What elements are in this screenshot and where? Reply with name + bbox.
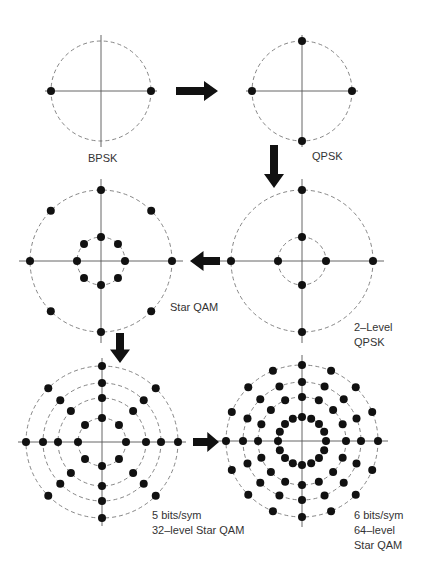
- constellation-point: [122, 438, 130, 446]
- arrow-right-icon: [193, 432, 219, 452]
- qpsk-constellation: [246, 35, 358, 147]
- star-qam-32-constellation: [18, 358, 186, 526]
- constellation-point: [322, 257, 330, 265]
- constellation-point: [157, 438, 165, 446]
- constellation-point: [67, 407, 75, 415]
- label-line: QPSK: [312, 149, 343, 164]
- label-line: Star QAM: [170, 300, 218, 315]
- constellation-point: [152, 384, 160, 392]
- label-line: BPSK: [88, 151, 117, 166]
- constellation-point: [81, 421, 89, 429]
- constellation-point: [327, 367, 335, 375]
- constellation-point: [244, 383, 252, 391]
- constellation-point: [114, 240, 122, 248]
- constellation-point: [147, 207, 155, 215]
- constellation-point: [289, 415, 297, 423]
- constellation-point: [298, 393, 306, 401]
- constellation-point: [147, 307, 155, 315]
- constellation-point: [74, 438, 82, 446]
- constellation-point: [321, 492, 329, 500]
- constellation-point: [140, 396, 148, 404]
- constellation-point: [315, 454, 323, 462]
- constellation-point: [281, 420, 289, 428]
- constellation-point: [80, 274, 88, 282]
- constellation-point: [315, 420, 323, 428]
- constellation-point: [39, 438, 47, 446]
- star-qam-32-label: 5 bits/sym32–level Star QAM: [152, 508, 244, 538]
- constellation-point: [298, 281, 306, 289]
- constellation-point: [353, 460, 361, 468]
- constellation-point: [368, 466, 376, 474]
- arrow-down-icon: [110, 333, 130, 363]
- two-level-qpsk-label: 2–LevelQPSK: [354, 320, 393, 350]
- constellation-point: [340, 395, 348, 403]
- two-level-qpsk-constellation: [220, 179, 384, 343]
- constellation-point: [276, 446, 284, 454]
- constellation-point: [47, 307, 55, 315]
- constellation-point: [254, 437, 262, 445]
- constellation-point: [244, 491, 252, 499]
- constellation-point: [80, 240, 88, 248]
- constellation-point: [256, 479, 264, 487]
- constellation-point: [339, 454, 347, 462]
- constellation-point: [98, 362, 106, 370]
- arrow-down-icon: [264, 145, 284, 188]
- constellation-point: [327, 507, 335, 515]
- label-line: 32–level Star QAM: [152, 523, 244, 538]
- constellation-point: [243, 460, 251, 468]
- constellation-point: [239, 437, 247, 445]
- constellation-point: [168, 257, 176, 265]
- constellation-point: [275, 492, 283, 500]
- constellation-point: [298, 496, 306, 504]
- constellation-point: [98, 514, 106, 522]
- star-qam-64-constellation: [216, 355, 388, 527]
- star-qam-constellation: [19, 179, 183, 343]
- constellation-point: [114, 274, 122, 282]
- label-line: 5 bits/sym: [152, 508, 244, 523]
- constellation-point: [98, 497, 106, 505]
- constellation-point: [322, 437, 330, 445]
- constellation-point: [81, 455, 89, 463]
- constellation-point: [228, 466, 236, 474]
- constellation-point: [222, 437, 230, 445]
- constellation-point: [257, 420, 265, 428]
- star-qam-label: Star QAM: [170, 300, 218, 315]
- constellation-point: [269, 367, 277, 375]
- constellation-point: [98, 414, 106, 422]
- constellation-point: [47, 87, 55, 95]
- constellation-point: [352, 383, 360, 391]
- label-line: 2–Level: [354, 320, 393, 335]
- constellation-point: [307, 459, 315, 467]
- constellation-point: [98, 394, 106, 402]
- constellation-point: [357, 437, 365, 445]
- bpsk-constellation: [45, 35, 157, 147]
- label-line: 6 bits/sym: [354, 508, 404, 523]
- constellation-point: [321, 382, 329, 390]
- constellation-point: [115, 455, 123, 463]
- constellation-point: [121, 257, 129, 265]
- constellation-point: [267, 468, 275, 476]
- constellation-point: [298, 378, 306, 386]
- qpsk-label: QPSK: [312, 149, 343, 164]
- constellation-point: [22, 438, 30, 446]
- constellation-point: [267, 406, 275, 414]
- constellation-point: [281, 396, 289, 404]
- arrow-left-icon: [190, 251, 220, 271]
- constellation-point: [298, 513, 306, 521]
- constellation-point: [152, 492, 160, 500]
- constellation-point: [339, 420, 347, 428]
- constellation-point: [98, 379, 106, 387]
- label-line: QPSK: [354, 335, 393, 350]
- constellation-point: [56, 396, 64, 404]
- constellation-point: [369, 257, 377, 265]
- label-line: Star QAM: [354, 538, 404, 553]
- constellation-point: [298, 233, 306, 241]
- bpsk-label: BPSK: [88, 151, 117, 166]
- constellation-point: [298, 186, 306, 194]
- constellation-point: [342, 437, 350, 445]
- constellation-point: [281, 478, 289, 486]
- constellation-point: [97, 328, 105, 336]
- constellation-point: [307, 415, 315, 423]
- constellation-point: [276, 428, 284, 436]
- constellation-point: [243, 414, 251, 422]
